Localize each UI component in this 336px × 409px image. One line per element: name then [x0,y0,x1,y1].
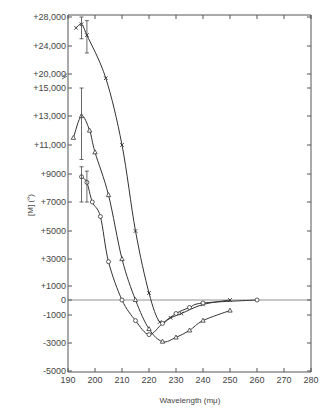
y-tick-label: +20,000 [33,69,66,79]
y-tick-label: +11,000 [34,140,66,150]
series-line-triangle [73,116,230,342]
x-tick-label: 240 [195,375,210,385]
x-tick-label: 200 [87,375,102,385]
x-tick-label: 230 [168,375,183,385]
series-line-x [76,24,230,323]
y-tick-label: +13,000 [33,111,66,121]
y-tick-label: +7000 [41,197,66,207]
x-tick-label: 190 [60,375,75,385]
x-tick-label: 220 [141,375,156,385]
plot-frame [68,15,311,372]
y-axis: +28,000+24,000+20,000+15,000+13,000+11,0… [33,12,311,376]
x-tick-label: 270 [276,375,291,385]
y-tick-label: -3000 [43,338,66,348]
x-tick-label: 210 [114,375,129,385]
y-axis-label: [M] (°) [26,194,35,216]
y-tick-label: 0 [61,295,66,305]
x-tick-label: 280 [303,375,318,385]
y-tick-label: +28,000 [33,12,66,22]
y-tick-label: +15,000 [33,83,66,93]
y-tick-label: +9000 [41,169,66,179]
x-axis-label: Wavelength (mμ) [160,396,221,405]
y-tick-label: +24,000 [33,41,66,51]
y-tick-label: +1000 [41,281,66,291]
y-tick-label: +3000 [41,254,66,264]
cd-spectrum-chart: +28,000+24,000+20,000+15,000+13,000+11,0… [0,0,336,409]
x-tick-label: 260 [249,375,264,385]
y-tick-label: +5000 [41,226,66,236]
series-group [71,17,259,343]
y-tick-label: -1000 [43,310,66,320]
x-tick-label: 250 [222,375,237,385]
